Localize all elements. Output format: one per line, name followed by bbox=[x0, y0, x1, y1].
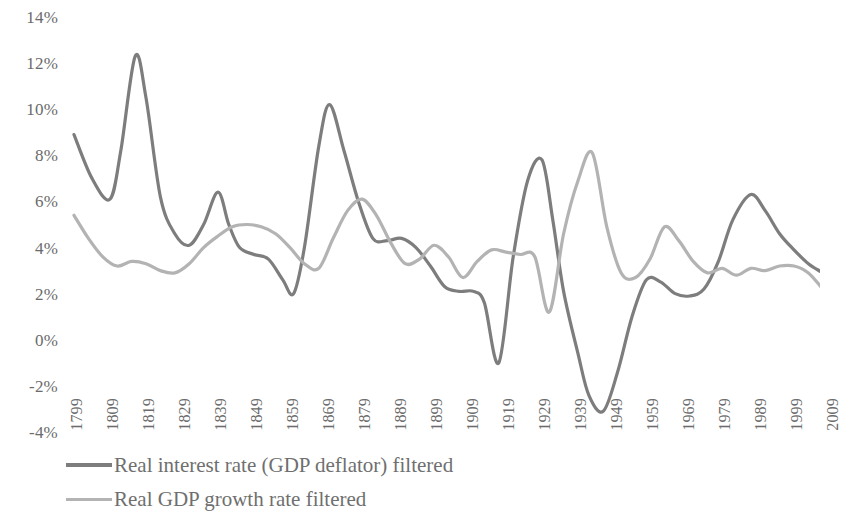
legend-color-swatch bbox=[66, 498, 112, 501]
legend-item-label: Real GDP growth rate filtered bbox=[114, 489, 366, 510]
x-axis-tick-label: 1919 bbox=[501, 398, 517, 431]
x-axis-tick-label: 1859 bbox=[285, 398, 301, 431]
x-axis-tick-label: 1889 bbox=[393, 398, 409, 431]
legend-item[interactable]: Real interest rate (GDP deflator) filter… bbox=[66, 448, 806, 482]
x-axis-tick-label: 1849 bbox=[249, 398, 265, 431]
x-axis-tick-label: 1869 bbox=[321, 398, 337, 431]
x-axis-tick-label: 1979 bbox=[717, 398, 733, 431]
y-axis-tick-label: 12% bbox=[26, 55, 58, 72]
legend-item-label: Real interest rate (GDP deflator) filter… bbox=[114, 455, 453, 476]
x-axis-tick-label: 1969 bbox=[681, 398, 697, 431]
y-axis-tick-label: 4% bbox=[35, 240, 58, 257]
x-axis-tick-label: 1929 bbox=[537, 398, 553, 431]
y-axis-tick-label: 6% bbox=[35, 193, 58, 210]
x-axis: 1799180918191829183918491859186918791889… bbox=[0, 352, 820, 448]
y-axis-tick-label: 10% bbox=[26, 101, 58, 118]
x-axis-tick-label: 1829 bbox=[177, 398, 193, 431]
x-axis-tick-label: 1999 bbox=[789, 398, 805, 431]
x-axis-tick-label: 1799 bbox=[69, 398, 85, 431]
x-axis-tick-label: 1909 bbox=[465, 398, 481, 431]
x-axis-tick-label: 1939 bbox=[573, 398, 589, 431]
x-axis-tick-label: 1899 bbox=[429, 398, 445, 431]
legend-color-swatch bbox=[66, 463, 112, 467]
x-axis-tick-label: 1819 bbox=[141, 398, 157, 431]
y-axis-tick-label: 8% bbox=[35, 147, 58, 164]
x-axis-tick-label: 1959 bbox=[645, 398, 661, 431]
x-axis-tick-label: 1809 bbox=[105, 398, 121, 431]
x-axis-tick-label: 1839 bbox=[213, 398, 229, 431]
y-axis-tick-label: 0% bbox=[35, 332, 58, 349]
chart-legend: Real interest rate (GDP deflator) filter… bbox=[66, 448, 806, 516]
legend-item[interactable]: Real GDP growth rate filtered bbox=[66, 482, 806, 516]
x-axis-tick-label: 1879 bbox=[357, 398, 373, 431]
x-axis-tick-label: 1949 bbox=[609, 398, 625, 431]
x-axis-tick-label: 1989 bbox=[753, 398, 769, 431]
y-axis-tick-label: 2% bbox=[35, 286, 58, 303]
x-axis-tick-label: 2009 bbox=[825, 398, 841, 431]
y-axis-tick-label: 14% bbox=[26, 9, 58, 26]
